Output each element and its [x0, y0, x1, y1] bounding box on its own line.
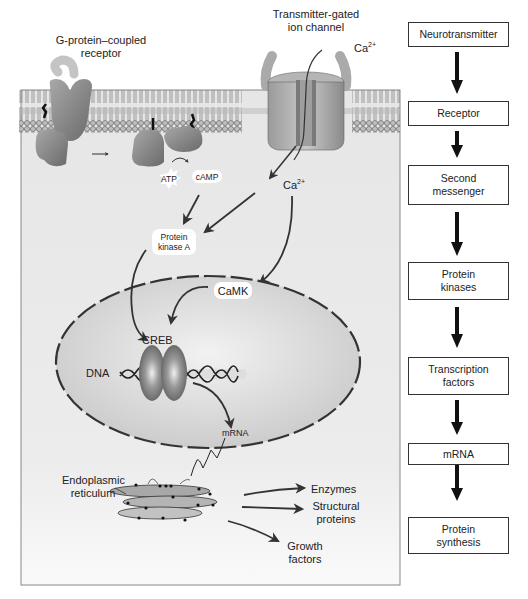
creb-protein-2 [161, 345, 187, 401]
ion-channel [266, 50, 347, 160]
flow-mrna: mRNA [408, 443, 509, 465]
gpcr-label: G-protein–coupled receptor [46, 34, 156, 60]
er-label: Endoplasmic reticulum [62, 474, 124, 500]
enzymes-label: Enzymes [311, 483, 356, 496]
camp-label: cAMP [192, 170, 222, 183]
dna-label: DNA [86, 367, 109, 380]
flow-protein-synthesis: Protein synthesis [408, 517, 509, 554]
structural-proteins-label: Structural proteins [306, 500, 366, 526]
flow-second-messenger: Second messenger [408, 165, 509, 205]
camk-label: CaMK [214, 282, 252, 299]
flow-protein-kinases: Protein kinases [408, 262, 509, 300]
ion-channel-label: Transmitter-gated ion channel [270, 8, 362, 34]
pka-label: Protein kinase A [152, 229, 196, 255]
ca-inside-label: Ca2+ [283, 175, 305, 192]
flow-transcription-factors: Transcription factors [408, 357, 509, 395]
mrna-label: mRNA [222, 428, 249, 438]
ca-outside-label: Ca2+ [354, 38, 376, 55]
nucleus [56, 276, 360, 448]
creb-label: CREB [142, 334, 173, 347]
flow-neurotransmitter: Neurotransmitter [408, 22, 509, 47]
atp-label: ATP [159, 174, 179, 184]
growth-factors-label: Growth factors [281, 540, 329, 566]
flow-receptor: Receptor [408, 101, 509, 126]
